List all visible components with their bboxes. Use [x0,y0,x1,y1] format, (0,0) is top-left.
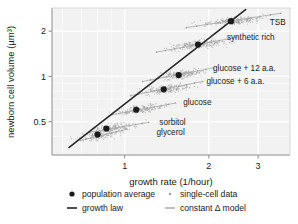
y-tick-label-2: 2 [41,26,46,36]
y-axis-title: newborn cell volume (µm³) [5,26,16,138]
x-tick-label-3: 3 [256,161,261,171]
y-tick-label-1: 1 [41,72,46,82]
annotation-glucose-12-a-a-: glucose + 12 a.a. [213,64,276,73]
x-tick-label-2: 2 [206,161,211,171]
annotation-sorbitol: sorbitol [159,118,186,127]
population-average-point-glucose-6-a-a- [161,86,167,92]
annotation-glucose-6-a-a-: glucose + 6 a.a. [206,77,264,86]
y-tick-label-0.5: 0.5 [33,117,46,127]
legend-label-population-average: population average [82,189,155,199]
newborn-cell-volume-vs-growth-rate-chart: glycerolsorbitolglucoseglucose + 6 a.a.g… [0,0,298,224]
annotation-glycerol: glycerol [157,128,185,137]
annotation-tsb: TSB [270,18,286,27]
legend-marker-single-cell-data [169,193,171,195]
x-tick-label-1: 1 [122,161,127,171]
legend-marker-population-average [69,191,74,196]
population-average-point-glucose [133,107,139,113]
legend-label-constant-delta-model: constant Δ model [180,203,246,213]
x-axis-title: growth rate (1/hour) [129,176,212,187]
legend-label-single-cell-data: single-cell data [180,189,238,199]
legend-label-growth-law: growth law [82,203,124,213]
population-average-point-sorbitol [103,125,109,131]
annotation-synthetic-rich: synthetic rich [227,33,275,42]
annotation-glucose: glucose [183,98,212,107]
population-average-point-glucose-12-a-a- [176,72,182,78]
legend-item-population-average: population average [69,189,155,199]
legend-item-single-cell-data: single-cell data [169,189,238,199]
population-average-point-synthetic-rich [195,41,201,47]
chart-figure: glycerolsorbitolglucoseglucose + 6 a.a.g… [0,0,298,224]
population-average-point-glycerol [94,132,100,138]
population-average-point-tsb [228,18,234,24]
